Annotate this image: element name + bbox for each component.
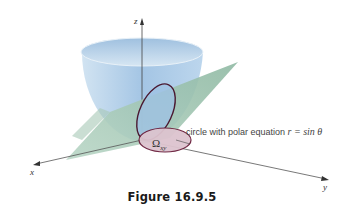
x-axis-arrow-icon [33,161,40,166]
annotation-text: circle with polar equation [186,127,288,137]
x-axis-label: x [30,167,34,177]
region-label-main: Ω [152,137,160,149]
figure-diagram [0,0,344,214]
z-axis-label: z [134,16,138,26]
region-label-sub: xy [160,144,166,152]
annotation-equation: r = sin θ [288,126,323,137]
circle-annotation: circle with polar equation r = sin θ [186,126,322,137]
region-label: Ωxy [152,137,166,152]
z-axis-arrow-icon [140,18,144,25]
figure-caption: Figure 16.9.5 [0,190,344,204]
y-axis-arrow-icon [321,176,329,181]
